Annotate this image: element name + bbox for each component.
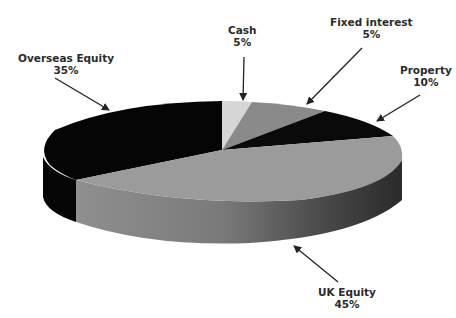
label-overseas-equity-pct: 35% <box>18 64 114 76</box>
label-overseas-equity: Overseas Equity 35% <box>18 52 114 76</box>
label-uk-equity-name: UK Equity <box>318 286 376 298</box>
label-property-pct: 10% <box>400 76 452 88</box>
property-arrow <box>377 95 420 121</box>
label-fixed-interest: Fixed interest 5% <box>330 16 413 40</box>
label-fixed-interest-pct: 5% <box>330 28 413 40</box>
chart-title-cropped <box>0 0 456 4</box>
fixed-interest-arrow <box>307 48 362 104</box>
label-fixed-interest-name: Fixed interest <box>330 16 413 28</box>
uk-equity-arrow <box>294 246 338 282</box>
label-uk-equity: UK Equity 45% <box>318 286 376 310</box>
cash-arrow <box>243 57 244 100</box>
label-cash-pct: 5% <box>228 36 257 48</box>
overseas-equity-arrow <box>55 78 109 110</box>
label-property-name: Property <box>400 64 452 76</box>
label-cash-name: Cash <box>228 24 257 36</box>
label-overseas-equity-name: Overseas Equity <box>18 52 114 64</box>
label-uk-equity-pct: 45% <box>318 298 376 310</box>
label-property: Property 10% <box>400 64 452 88</box>
label-cash: Cash 5% <box>228 24 257 48</box>
